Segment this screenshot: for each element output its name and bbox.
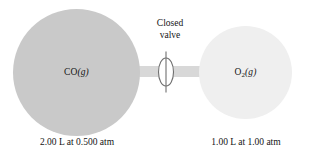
valve-caption-line-2: valve (139, 30, 201, 42)
valve-caption: Closed valve (139, 18, 201, 41)
gas-bulbs-diagram: CO(g) O2(g) Closed valve 2.00 L at 0.500… (0, 0, 309, 156)
caption-right: 1.00 L at 1.00 atm (193, 137, 299, 147)
gas-formula-left: CO (64, 67, 77, 77)
gas-vessel-right: O2(g) (199, 26, 292, 119)
gas-vessel-left-label: CO(g) (13, 67, 140, 77)
gas-phase-left: (g) (78, 67, 89, 77)
gas-vessel-right-label: O2(g) (199, 67, 292, 79)
gas-phase-right: (g) (245, 67, 256, 77)
caption-left: 2.00 L at 0.500 atm (14, 137, 140, 147)
closed-valve-icon (155, 51, 177, 93)
gas-vessel-left: CO(g) (13, 9, 140, 136)
valve-caption-line-1: Closed (139, 18, 201, 30)
